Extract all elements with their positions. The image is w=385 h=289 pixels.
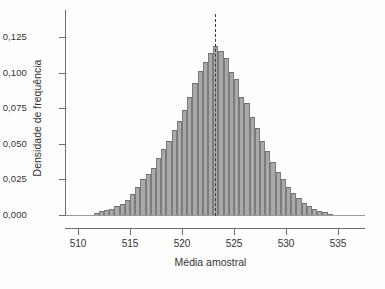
population-mean-reference-line [215, 14, 216, 216]
y-axis-tick [59, 179, 66, 180]
x-axis-tick-label: 525 [226, 238, 243, 249]
x-axis-tick [234, 228, 235, 235]
y-axis-tick [59, 215, 66, 216]
x-axis-tick-label: 515 [122, 238, 139, 249]
y-axis-title: Densidade de frequência [31, 18, 43, 218]
x-axis-tick [130, 228, 131, 235]
x-axis-tick [286, 228, 287, 235]
y-axis-tick [59, 108, 66, 109]
y-axis-tick [59, 144, 66, 145]
y-axis-tick [59, 73, 66, 74]
x-axis-tick-label: 520 [174, 238, 191, 249]
x-axis-tick-label: 530 [278, 238, 295, 249]
x-axis-tick [182, 228, 183, 235]
x-axis-tick [78, 228, 79, 235]
x-axis-title: Média amostral [0, 256, 385, 268]
histogram-bars [0, 0, 385, 289]
y-axis-tick [59, 37, 66, 38]
x-axis-tick-label: 510 [70, 238, 87, 249]
x-axis-tick-label: 535 [330, 238, 347, 249]
x-axis-tick [338, 228, 339, 235]
histogram-figure: 0,0000,0250,0500,0750,1000,125 Densidade… [0, 0, 385, 289]
